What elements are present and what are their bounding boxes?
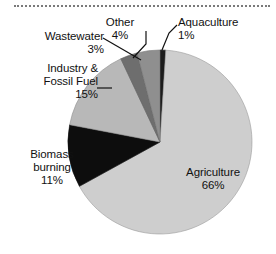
slice-label-industry-line2: Fossil Fuel — [6, 75, 98, 88]
slice-label-aquaculture: Aquaculture 1% — [178, 16, 270, 42]
slice-label-biomass-percent: 11% — [12, 174, 92, 187]
slice-label-wastewater: Wastewater 3% — [10, 30, 104, 56]
slice-label-biomass-line1: Biomass — [30, 148, 73, 160]
slice-label-industry-percent: 15% — [6, 88, 98, 101]
slice-label-other: Other 4% — [92, 16, 148, 42]
slice-label-aquaculture-name: Aquaculture — [178, 16, 238, 28]
slice-label-industry-line1: Industry & — [47, 62, 98, 74]
slice-label-biomass-burning: Biomass burning 11% — [12, 148, 92, 187]
slice-label-aquaculture-percent: 1% — [178, 29, 270, 42]
slice-label-wastewater-percent: 3% — [10, 43, 104, 56]
slice-label-other-name: Other — [106, 16, 134, 28]
slice-label-agriculture: Agriculture 66% — [176, 166, 250, 192]
slice-label-other-percent: 4% — [92, 29, 148, 42]
slice-label-industry-fossil-fuel: Industry & Fossil Fuel 15% — [6, 62, 98, 101]
pie-chart-figure: Wastewater 3% Other 4% Aquaculture 1% In… — [0, 0, 276, 254]
leader-line-aquaculture — [162, 25, 177, 50]
slice-label-agriculture-percent: 66% — [176, 179, 250, 192]
slice-label-agriculture-name: Agriculture — [186, 166, 240, 178]
slice-label-biomass-line2: burning — [12, 161, 92, 174]
